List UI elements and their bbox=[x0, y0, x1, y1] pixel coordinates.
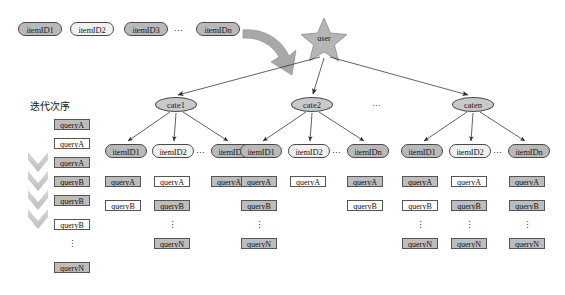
iteration-query-box[interactable]: queryA bbox=[54, 138, 90, 149]
leaf-query-box[interactable]: queryB bbox=[105, 200, 141, 211]
top-row-ellipsis: ⋯ bbox=[174, 27, 184, 36]
leaf-query-box[interactable]: queryB bbox=[402, 200, 438, 211]
tree-item-node[interactable]: itemID2 bbox=[152, 144, 194, 158]
iteration-query-box[interactable]: queryA bbox=[54, 157, 90, 168]
leaf-query-box[interactable]: queryN bbox=[451, 238, 487, 249]
tree-item-ellipsis: ⋯ bbox=[332, 149, 342, 158]
leaf-vertical-ellipsis: ⋮ bbox=[154, 221, 190, 229]
iteration-query-box[interactable]: queryA bbox=[54, 119, 90, 130]
leaf-query-box[interactable]: queryA bbox=[347, 176, 383, 187]
top-item-node[interactable]: itemID2 bbox=[70, 22, 114, 36]
curved-arrow-icon bbox=[243, 30, 296, 75]
leaf-query-box[interactable]: queryN bbox=[241, 238, 277, 249]
tree-item-node[interactable]: itemID1 bbox=[240, 144, 282, 158]
leaf-query-box[interactable]: queryB bbox=[241, 200, 277, 211]
tree-item-node[interactable]: itemID1 bbox=[105, 144, 147, 158]
leaf-query-box[interactable]: queryN bbox=[509, 238, 545, 249]
iteration-query-box[interactable]: queryN bbox=[54, 262, 90, 273]
tree-item-node[interactable]: itemID1 bbox=[401, 144, 443, 158]
iteration-chevron-icons bbox=[28, 152, 48, 229]
iteration-query-box[interactable]: queryB bbox=[54, 195, 90, 206]
category-node-caten[interactable]: caten bbox=[452, 97, 494, 112]
leaf-query-box[interactable]: queryN bbox=[154, 238, 190, 249]
top-item-node[interactable]: itemID3 bbox=[124, 22, 168, 36]
leaf-query-box[interactable]: queryB bbox=[509, 200, 545, 211]
tree-item-node[interactable]: itemID2 bbox=[288, 144, 330, 158]
leaf-vertical-ellipsis: ⋮ bbox=[509, 221, 545, 229]
top-item-node[interactable]: itemID1 bbox=[18, 22, 62, 36]
iteration-query-box[interactable]: queryB bbox=[54, 219, 90, 230]
leaf-query-box[interactable]: queryB bbox=[347, 200, 383, 211]
leaf-query-box[interactable]: queryB bbox=[154, 200, 190, 211]
category-node-cate1[interactable]: cate1 bbox=[155, 97, 197, 112]
iteration-query-box[interactable]: queryB bbox=[54, 176, 90, 187]
leaf-query-box[interactable]: queryA bbox=[154, 176, 190, 187]
user-label: user bbox=[307, 34, 341, 44]
tree-item-ellipsis: ⋯ bbox=[196, 149, 206, 158]
diagram-canvas: itemID1 itemID2 itemID3 ⋯ itemIDn user 迭… bbox=[0, 0, 565, 295]
leaf-query-box[interactable]: queryA bbox=[290, 176, 326, 187]
iteration-order-title: 迭代次序 bbox=[30, 101, 70, 113]
leaf-vertical-ellipsis: ⋮ bbox=[241, 221, 277, 229]
iteration-vertical-ellipsis: ⋮ bbox=[54, 240, 90, 248]
leaf-query-box[interactable]: queryA bbox=[402, 176, 438, 187]
leaf-query-box[interactable]: queryA bbox=[241, 176, 277, 187]
leaf-query-box[interactable]: queryA bbox=[509, 176, 545, 187]
leaf-query-box[interactable]: queryB bbox=[451, 200, 487, 211]
top-item-node[interactable]: itemIDn bbox=[196, 22, 240, 36]
leaf-vertical-ellipsis: ⋮ bbox=[451, 221, 487, 229]
tree-item-node[interactable]: itemID2 bbox=[449, 144, 491, 158]
leaf-query-box[interactable]: queryA bbox=[105, 176, 141, 187]
tree-item-node[interactable]: itemIDn bbox=[347, 144, 389, 158]
leaf-query-box[interactable]: queryN bbox=[402, 238, 438, 249]
leaf-query-box[interactable]: queryA bbox=[451, 176, 487, 187]
tree-item-ellipsis: ⋯ bbox=[493, 149, 503, 158]
leaf-vertical-ellipsis: ⋮ bbox=[402, 221, 438, 229]
category-node-cate2[interactable]: cate2 bbox=[291, 97, 333, 112]
tree-item-node[interactable]: itemIDn bbox=[508, 144, 550, 158]
category-ellipsis: ⋯ bbox=[372, 102, 382, 111]
